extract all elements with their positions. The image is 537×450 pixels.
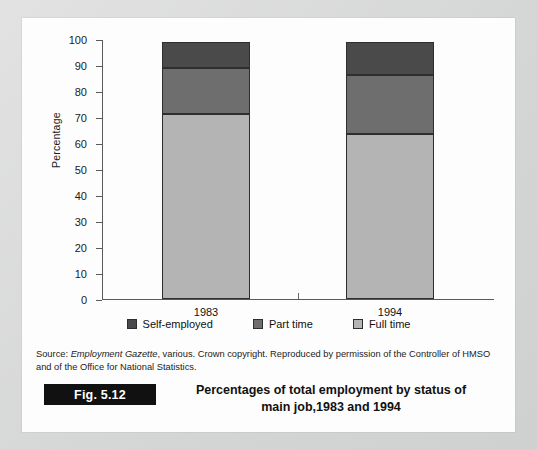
x-axis-center-tick	[298, 293, 299, 299]
bar-segment-self-employed-1983[interactable]	[162, 42, 250, 68]
y-tick-60: 60	[96, 144, 102, 145]
bar-segment-part-time-1983[interactable]	[162, 68, 250, 115]
source-note: Source: Employment Gazette, various. Cro…	[36, 348, 502, 375]
y-tick-50: 50	[96, 170, 102, 171]
legend-label-full-time: Full time	[369, 318, 411, 330]
y-axis-title: Percentage	[50, 112, 62, 168]
legend-item-part-time[interactable]: Part time	[253, 318, 313, 330]
y-tick-label-60: 60	[75, 139, 87, 150]
legend-swatch-full-time	[353, 319, 363, 329]
chart-legend: Self-employed Part time Full time	[22, 318, 515, 330]
figure-number-badge: Fig. 5.12	[44, 384, 156, 405]
y-tick-70: 70	[96, 118, 102, 119]
stacked-bar-chart: Percentage 100 90 80 70 60 50 40 30 20 1…	[22, 18, 515, 318]
legend-swatch-part-time	[253, 319, 263, 329]
y-tick-label-100: 100	[69, 35, 87, 46]
y-tick-0: 0	[96, 300, 102, 301]
bar-1983[interactable]: 1983	[162, 42, 250, 299]
legend-swatch-self-employed	[127, 319, 137, 329]
y-tick-label-80: 80	[75, 87, 87, 98]
figure-caption-line-2: main job,1983 and 1994	[166, 399, 496, 416]
legend-label-part-time: Part time	[269, 318, 313, 330]
plot-area: 100 90 80 70 60 50 40 30 20 10 0 1983	[102, 40, 482, 300]
y-tick-90: 90	[96, 66, 102, 67]
x-axis-label-1983: 1983	[194, 306, 218, 318]
y-tick-80: 80	[96, 92, 102, 93]
y-tick-label-40: 40	[75, 191, 87, 202]
legend-label-self-employed: Self-employed	[143, 318, 213, 330]
figure-panel: Percentage 100 90 80 70 60 50 40 30 20 1…	[22, 18, 515, 432]
x-axis-line	[102, 299, 494, 300]
bar-segment-full-time-1994[interactable]	[346, 134, 434, 299]
y-axis-line	[102, 40, 103, 300]
x-axis-label-1994: 1994	[378, 306, 402, 318]
bar-1994[interactable]: 1994	[346, 42, 434, 299]
bar-segment-self-employed-1994[interactable]	[346, 42, 434, 76]
y-tick-label-70: 70	[75, 113, 87, 124]
legend-item-full-time[interactable]: Full time	[353, 318, 411, 330]
y-tick-label-20: 20	[75, 243, 87, 254]
y-tick-label-0: 0	[81, 295, 87, 306]
bar-segment-part-time-1994[interactable]	[346, 75, 434, 134]
page-frame: Percentage 100 90 80 70 60 50 40 30 20 1…	[0, 0, 537, 450]
y-tick-40: 40	[96, 196, 102, 197]
figure-caption-line-1: Percentages of total employment by statu…	[166, 382, 496, 399]
source-prefix: Source:	[36, 349, 71, 359]
y-tick-20: 20	[96, 248, 102, 249]
y-tick-100: 100	[96, 40, 102, 41]
y-tick-30: 30	[96, 222, 102, 223]
y-tick-10: 10	[96, 274, 102, 275]
y-tick-label-50: 50	[75, 165, 87, 176]
y-tick-label-90: 90	[75, 61, 87, 72]
y-tick-label-10: 10	[75, 269, 87, 280]
bar-segment-full-time-1983[interactable]	[162, 114, 250, 299]
y-tick-label-30: 30	[75, 217, 87, 228]
source-publication: Employment Gazette	[71, 349, 158, 359]
figure-caption-text: Percentages of total employment by statu…	[166, 382, 496, 416]
figure-caption: Fig. 5.12 Percentages of total employmen…	[36, 384, 502, 426]
legend-item-self-employed[interactable]: Self-employed	[127, 318, 213, 330]
